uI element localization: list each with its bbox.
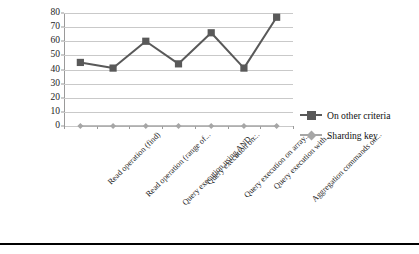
chart-figure: 01020304050607080 Read operation (find)R… [0, 0, 419, 254]
data-point-square-icon [273, 14, 280, 21]
legend-item-sharding-key: Sharding key [300, 125, 415, 145]
y-axis-tick-label: 70 [51, 22, 61, 32]
data-point-square-icon [240, 64, 247, 71]
data-point-square-icon [208, 29, 215, 36]
data-point-square-icon [77, 59, 84, 66]
series-layer [64, 13, 293, 126]
y-axis-tick-label: 50 [51, 51, 61, 61]
y-axis-tick-label: 30 [51, 79, 61, 89]
bottom-divider-rule [0, 243, 419, 245]
data-point-diamond-icon [176, 123, 182, 129]
x-axis-label: Read operation (range of... [145, 131, 213, 199]
chart-plot-area: 01020304050607080 Read operation (find)R… [0, 0, 419, 240]
legend-label: On other criteria [327, 110, 390, 121]
legend-item-on-other-criteria: On other criteria [300, 105, 415, 125]
legend-label: Sharding key [327, 130, 378, 141]
legend-marker-square-icon [300, 109, 322, 121]
data-point-diamond-icon [143, 123, 149, 129]
x-axis-tick-mark [64, 126, 65, 129]
y-axis-tick-label: 20 [51, 93, 61, 103]
data-point-square-icon [142, 38, 149, 45]
x-axis-label: Query execution using AND... [181, 131, 258, 208]
x-axis-label: Query execution on... [205, 131, 261, 187]
y-axis-tick-label: 0 [55, 121, 60, 131]
data-point-diamond-icon [77, 123, 83, 129]
x-axis-label: Read operation (find) [107, 131, 163, 187]
legend-marker-diamond-icon [300, 129, 322, 141]
y-axis-tick-label: 80 [51, 8, 61, 18]
y-axis-tick-label: 10 [51, 107, 61, 117]
plot-canvas: 01020304050607080 [64, 13, 293, 126]
data-point-diamond-icon [110, 123, 116, 129]
data-point-square-icon [109, 64, 116, 71]
x-axis-tick-mark [293, 126, 294, 129]
chart-legend: On other criteria Sharding key [300, 105, 415, 145]
data-point-diamond-icon [274, 123, 280, 129]
data-point-diamond-icon [241, 123, 247, 129]
y-axis-tick-label: 60 [51, 37, 61, 47]
data-point-square-icon [175, 60, 182, 67]
data-point-diamond-icon [208, 123, 214, 129]
y-axis-tick-label: 40 [51, 65, 61, 75]
